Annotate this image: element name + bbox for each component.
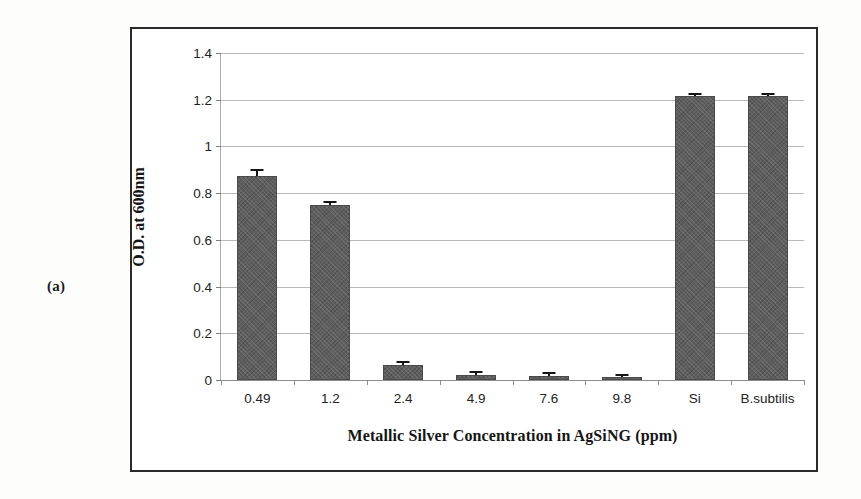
error-bar — [767, 95, 769, 96]
figure-frame: O.D. at 600nm 00.20.40.60.811.21.40.491.… — [130, 27, 818, 472]
bar — [237, 176, 277, 380]
y-axis-title: O.D. at 600nm — [130, 167, 148, 267]
x-axis-tick-label: 0.49 — [244, 391, 270, 406]
x-axis-tick — [658, 380, 659, 385]
page-background: (a) O.D. at 600nm 00.20.40.60.811.21.40.… — [0, 0, 861, 499]
error-bar-cap — [397, 361, 410, 363]
x-axis-tick — [367, 380, 368, 385]
x-axis-tick-label: 1.2 — [321, 391, 340, 406]
error-bar-cap — [542, 372, 555, 374]
x-axis-tick-label: 7.6 — [540, 391, 559, 406]
error-bar — [329, 203, 331, 204]
y-axis-tick-label: 0.6 — [193, 232, 212, 247]
bar-group: 1.2 — [294, 53, 367, 380]
x-axis-tick — [513, 380, 514, 385]
bar — [456, 375, 496, 380]
y-axis-tick-label: 0.4 — [193, 279, 212, 294]
x-axis-tick — [221, 380, 222, 385]
bar-group: 4.9 — [440, 53, 513, 380]
x-axis-tick-label: 4.9 — [467, 391, 486, 406]
error-bar-cap — [324, 201, 337, 203]
x-axis-tick-label: B.subtilis — [741, 391, 795, 406]
bar-chart: O.D. at 600nm 00.20.40.60.811.21.40.491.… — [132, 29, 820, 474]
x-axis-tick-label: 2.4 — [394, 391, 413, 406]
error-bar-cap — [761, 93, 774, 95]
bar — [383, 365, 423, 380]
x-axis-tick — [585, 380, 586, 385]
x-axis-tick — [294, 380, 295, 385]
bar — [310, 205, 350, 380]
bar — [748, 96, 788, 380]
y-axis-tick-label: 1 — [204, 139, 212, 154]
bar-group: 2.4 — [367, 53, 440, 380]
error-bar — [621, 376, 623, 377]
y-axis-tick-label: 0 — [204, 373, 212, 388]
y-axis-tick-label: 0.8 — [193, 186, 212, 201]
error-bar-cap — [251, 169, 264, 171]
error-bar-cap — [615, 374, 628, 376]
y-axis-tick-label: 0.2 — [193, 326, 212, 341]
bar — [675, 96, 715, 380]
error-bar — [548, 374, 550, 375]
x-axis-tick — [440, 380, 441, 385]
bar-group: B.subtilis — [731, 53, 804, 380]
error-bar — [694, 95, 696, 96]
panel-label: (a) — [47, 278, 65, 295]
bar — [529, 376, 569, 380]
error-bar — [475, 373, 477, 374]
bar-group: 0.49 — [221, 53, 294, 380]
x-axis-tick-label: Si — [689, 391, 701, 406]
x-axis-tick — [731, 380, 732, 385]
error-bar — [256, 171, 258, 176]
bar-group: Si — [658, 53, 731, 380]
x-axis-tick — [804, 380, 805, 385]
x-axis-tick-label: 9.8 — [612, 391, 631, 406]
bar-group: 9.8 — [585, 53, 658, 380]
error-bar-cap — [688, 93, 701, 95]
error-bar — [402, 363, 404, 365]
plot-area: 00.20.40.60.811.21.40.491.22.44.97.69.8S… — [221, 53, 804, 380]
y-axis-tick-label: 1.4 — [193, 46, 212, 61]
bar-group: 7.6 — [513, 53, 586, 380]
x-axis-title: Metallic Silver Concentration in AgSiNG … — [221, 427, 804, 445]
error-bar-cap — [470, 371, 483, 373]
bar — [602, 377, 642, 380]
y-axis-tick-label: 1.2 — [193, 92, 212, 107]
